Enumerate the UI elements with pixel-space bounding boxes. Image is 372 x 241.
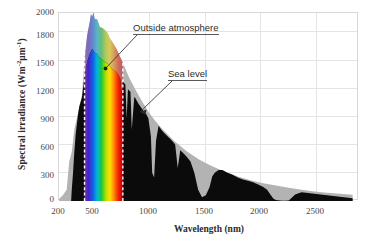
spectral-irradiance-figure: Spectral irradiance (Wm-2μm-1) 2000 1800… [0, 0, 372, 241]
x-axis-label: Wavelength (nm) [58, 224, 360, 234]
annotation-sea-level: Sea level [168, 69, 207, 81]
y-tick-900: 900 [20, 115, 54, 124]
y-axis-ticks: 2000 1800 1500 1200 900 600 300 0 [16, 0, 54, 241]
x-tick-2000: 2000 [239, 206, 279, 216]
y-tick-2000: 2000 [20, 8, 54, 17]
y-tick-1500: 1500 [20, 59, 54, 68]
x-tick-1000: 1000 [128, 206, 168, 216]
x-tick-500: 500 [72, 206, 112, 216]
y-tick-1800: 1800 [20, 31, 54, 40]
y-tick-600: 600 [20, 143, 54, 152]
annotation-outside-atmosphere: Outside atmosphere [133, 23, 219, 35]
y-tick-300: 300 [20, 171, 54, 180]
plot-area [58, 12, 358, 200]
x-tick-1500: 1500 [184, 206, 224, 216]
y-tick-0: 0 [20, 195, 54, 204]
series-canvas [59, 13, 359, 201]
spectrum-curves [59, 13, 359, 201]
y-tick-1200: 1200 [20, 87, 54, 96]
x-tick-2500: 2500 [295, 206, 335, 216]
